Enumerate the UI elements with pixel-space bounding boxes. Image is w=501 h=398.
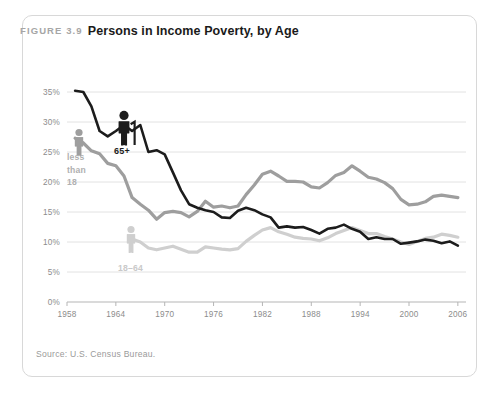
series-label-18-64: 18–64 [118, 263, 143, 273]
x-axis-tick-label: 1976 [204, 310, 223, 319]
x-axis-tick-label: 2000 [399, 310, 418, 319]
x-axis-tick-label: 1994 [351, 310, 370, 319]
x-axis-tick-label: 1958 [57, 310, 76, 319]
series-line-18-64 [132, 228, 458, 253]
y-axis-tick-label: 10% [43, 238, 60, 247]
series-line-65- [75, 91, 458, 246]
line-chart: 0%5%10%15%20%25%30%35%195819641970197619… [0, 0, 501, 398]
y-axis-tick-label: 30% [43, 118, 60, 127]
x-axis-tick-label: 1964 [106, 310, 125, 319]
y-axis-tick-label: 15% [43, 208, 60, 217]
y-axis-tick-label: 0% [48, 298, 60, 307]
y-axis-tick-label: 35% [43, 88, 60, 97]
series-label-under-18: less [67, 152, 85, 162]
series-label-under-18: than [67, 165, 86, 175]
person-icon-65-plus [119, 111, 135, 146]
series-label-under-18: 18 [67, 177, 77, 187]
y-axis-tick-label: 25% [43, 148, 60, 157]
person-icon-18-64 [127, 226, 135, 253]
source-note: Source: U.S. Census Bureau. [36, 349, 155, 359]
series-label-65-plus: 65+ [114, 146, 130, 156]
x-axis-tick-label: 2006 [448, 310, 467, 319]
y-axis-tick-label: 5% [48, 268, 60, 277]
x-axis-tick-label: 1982 [253, 310, 272, 319]
series-line-less-than-18 [75, 138, 458, 219]
y-axis-tick-label: 20% [43, 178, 60, 187]
x-axis-tick-label: 1988 [302, 310, 321, 319]
x-axis-tick-label: 1970 [155, 310, 174, 319]
